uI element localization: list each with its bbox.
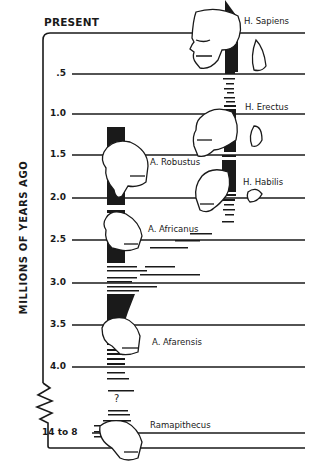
skull-ramapithecus-icon: [100, 421, 142, 460]
label-h-habilis: H. Habilis: [243, 177, 283, 187]
frame-top-left: [43, 33, 305, 383]
tick-14-to-8: 14 to 8: [42, 427, 90, 437]
uncertain-mark: ?: [114, 393, 119, 404]
tick-2-5: 2.5: [36, 234, 66, 244]
tool-blade-icon: [252, 40, 266, 71]
tick-0-5: .5: [36, 68, 66, 78]
tick-3-5: 3.5: [36, 319, 66, 329]
tick-2-0: 2.0: [36, 192, 66, 202]
label-a-afarensis: A. Afarensis: [152, 337, 202, 347]
tick-1-5: 1.5: [36, 149, 66, 159]
zigzag-break: [37, 383, 305, 448]
tool-chopper-icon: [247, 189, 262, 202]
label-ramapithecus: Ramapithecus: [150, 420, 211, 430]
skull-a-africanus-icon: [104, 212, 142, 251]
tick-1-0: 1.0: [36, 108, 66, 118]
tick-3-0: 3.0: [36, 277, 66, 287]
label-h-sapiens: H. Sapiens: [244, 16, 289, 26]
tick-4-0: 4.0: [36, 361, 66, 371]
tool-handaxe-icon: [250, 126, 262, 146]
label-h-erectus: H. Erectus: [245, 102, 288, 112]
label-a-robustus: A. Robustus: [150, 157, 200, 167]
label-a-africanus: A. Africanus: [148, 224, 199, 234]
